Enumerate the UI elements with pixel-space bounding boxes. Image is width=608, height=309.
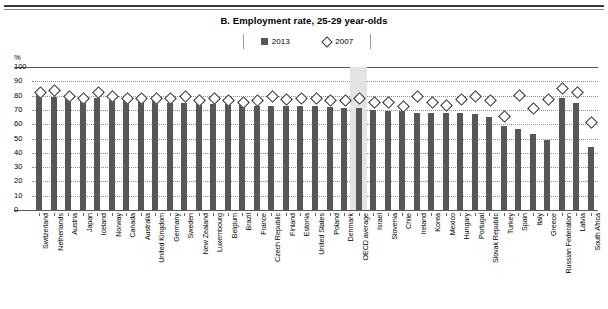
bar-slovak-republic[interactable] — [486, 117, 492, 210]
x-axis-tick — [373, 213, 374, 216]
diamond-marker-russian-federation[interactable] — [556, 82, 569, 95]
bar-slovenia[interactable] — [385, 111, 391, 210]
diamond-marker-estonia[interactable] — [295, 92, 308, 105]
bar-russian-federation[interactable] — [559, 98, 565, 210]
bar-czech-republic[interactable] — [268, 106, 274, 210]
gridline — [32, 81, 598, 82]
x-axis-label-australia: Australia — [144, 213, 152, 240]
x-axis-label-portugal: Portugal — [478, 213, 486, 239]
diamond-marker-korea[interactable] — [426, 96, 439, 109]
diamond-marker-united-states[interactable] — [310, 92, 323, 105]
bar-greece[interactable] — [544, 140, 550, 210]
bar-netherlands[interactable] — [51, 97, 57, 210]
bar-finland[interactable] — [283, 106, 289, 210]
x-axis-tick — [330, 213, 331, 216]
x-axis-label-slovenia: Slovenia — [391, 213, 399, 240]
x-axis-label-israel: Israel — [376, 213, 384, 230]
bar-brazil[interactable] — [239, 104, 245, 210]
x-axis-tick — [141, 213, 142, 216]
x-axis-tick — [431, 213, 432, 216]
bar-estonia[interactable] — [297, 106, 303, 210]
bar-luxembourg[interactable] — [210, 104, 216, 210]
bar-germany[interactable] — [167, 103, 173, 210]
bar-france[interactable] — [254, 106, 260, 210]
bar-sweden[interactable] — [181, 103, 187, 210]
bar-south-africa[interactable] — [588, 147, 594, 210]
y-axis-tick-label: 80 — [14, 92, 30, 100]
diamond-marker-spain[interactable] — [513, 89, 526, 102]
diamond-marker-israel[interactable] — [368, 96, 381, 109]
bar-japan[interactable] — [80, 98, 86, 210]
bar-switzerland[interactable] — [36, 93, 42, 210]
x-axis-label-ireland: Ireland — [420, 213, 428, 234]
y-axis-tick-label: 100 — [14, 63, 30, 71]
y-axis-tick-label: 50 — [14, 135, 30, 143]
bar-denmark[interactable] — [341, 108, 347, 210]
bar-austria[interactable] — [65, 98, 71, 210]
bar-united-kingdom[interactable] — [152, 101, 158, 210]
legend-item-2007[interactable]: 2007 — [323, 37, 353, 46]
bar-poland[interactable] — [327, 107, 333, 210]
legend-item-2013[interactable]: 2013 — [261, 37, 290, 46]
bar-belgium[interactable] — [225, 104, 231, 210]
x-axis-tick — [359, 213, 360, 216]
diamond-marker-portugal[interactable] — [469, 90, 482, 103]
diamond-marker-south-africa[interactable] — [585, 116, 598, 129]
x-axis-tick — [344, 213, 345, 216]
diamond-marker-sweden[interactable] — [179, 90, 192, 103]
x-axis-tick — [562, 213, 563, 216]
top-rule — [4, 5, 604, 7]
diamond-marker-ireland[interactable] — [411, 90, 424, 103]
x-axis-label-iceland: Iceland — [100, 213, 108, 235]
x-axis-tick — [170, 213, 171, 216]
bar-hungary[interactable] — [457, 113, 463, 210]
bar-new-zealand[interactable] — [196, 104, 202, 210]
x-axis-label-slovak-republic: Slovak Republic — [492, 213, 500, 263]
bar-norway[interactable] — [109, 100, 115, 210]
diamond-marker-latvia[interactable] — [571, 86, 584, 99]
plot-area — [32, 67, 598, 210]
bar-italy[interactable] — [530, 134, 536, 210]
x-axis-label-chile: Chile — [405, 213, 413, 229]
diamond-marker-turkey[interactable] — [498, 110, 511, 123]
bar-turkey[interactable] — [501, 126, 507, 210]
x-axis-label-belgium: Belgium — [231, 213, 239, 238]
x-axis-label-spain: Spain — [521, 213, 529, 231]
bar-united-states[interactable] — [312, 106, 318, 210]
diamond-marker-iceland[interactable] — [92, 86, 105, 99]
x-axis-label-greece: Greece — [550, 213, 558, 236]
diamond-marker-italy[interactable] — [527, 102, 540, 115]
open-diamond-icon — [322, 36, 333, 47]
x-axis-label-finland: Finland — [289, 213, 297, 236]
bar-oecd-average[interactable] — [356, 108, 362, 210]
bar-israel[interactable] — [370, 110, 376, 210]
x-axis-tick — [504, 213, 505, 216]
diamond-marker-luxembourg[interactable] — [208, 92, 221, 105]
x-axis-label-sweden: Sweden — [187, 213, 195, 238]
x-axis-label-france: France — [260, 213, 268, 235]
x-axis-tick — [199, 213, 200, 216]
x-axis-label-netherlands: Netherlands — [57, 213, 65, 251]
bar-chile[interactable] — [399, 111, 405, 210]
bar-australia[interactable] — [138, 101, 144, 210]
x-axis-label-poland: Poland — [333, 213, 341, 235]
bar-latvia[interactable] — [573, 103, 579, 210]
x-axis-label-russian-federation: Russian Federation — [565, 213, 573, 274]
bar-mexico[interactable] — [443, 113, 449, 210]
x-axis-label-united-kingdom: United Kingdom — [158, 213, 166, 263]
diamond-marker-slovenia[interactable] — [382, 96, 395, 109]
bar-portugal[interactable] — [472, 114, 478, 210]
bar-spain[interactable] — [515, 129, 521, 211]
x-axis-label-italy: Italy — [536, 213, 544, 226]
bar-iceland[interactable] — [94, 98, 100, 210]
diamond-marker-czech-republic[interactable] — [266, 90, 279, 103]
bar-ireland[interactable] — [414, 113, 420, 210]
bar-korea[interactable] — [428, 113, 434, 210]
y-axis-tick-label: 10 — [14, 192, 30, 200]
x-axis-tick — [533, 213, 534, 216]
x-axis-label-germany: Germany — [173, 213, 181, 242]
filled-square-icon — [261, 38, 268, 45]
top-rule-thin — [4, 9, 604, 10]
x-axis-tick — [417, 213, 418, 216]
bar-canada[interactable] — [123, 101, 129, 210]
